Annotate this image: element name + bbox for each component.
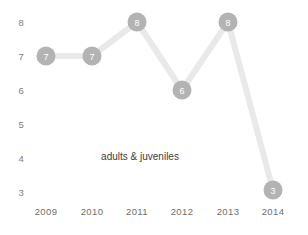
x-axis-tick-2012: 2012 <box>160 207 204 217</box>
chart-plot-area: 778683 <box>0 0 308 235</box>
data-point-value-2010: 7 <box>89 52 94 62</box>
y-axis-tick-7: 7 <box>6 52 24 62</box>
y-axis-tick-5: 5 <box>6 120 24 130</box>
data-point-value-2014: 3 <box>270 186 275 196</box>
y-axis-tick-4: 4 <box>6 154 24 164</box>
x-axis-tick-2010: 2010 <box>70 207 114 217</box>
line-chart: 778683 8 7 6 5 4 3 2009 2010 2011 2012 2… <box>0 0 308 235</box>
series-line-adults-juveniles <box>46 22 273 190</box>
x-axis-tick-2014: 2014 <box>251 207 295 217</box>
series-annotation-label: adults & juveniles <box>101 152 179 162</box>
data-point-markers: 778683 <box>37 13 283 200</box>
data-point-value-2012: 6 <box>179 86 184 96</box>
data-point-value-2011: 8 <box>134 18 139 28</box>
y-axis-tick-8: 8 <box>6 18 24 28</box>
x-axis-tick-2011: 2011 <box>115 207 159 217</box>
x-axis-tick-2009: 2009 <box>24 207 68 217</box>
data-point-value-2009: 7 <box>43 52 48 62</box>
y-axis-tick-6: 6 <box>6 86 24 96</box>
x-axis-tick-2013: 2013 <box>206 207 250 217</box>
y-axis-tick-3: 3 <box>6 188 24 198</box>
data-point-value-2013: 8 <box>225 18 230 28</box>
